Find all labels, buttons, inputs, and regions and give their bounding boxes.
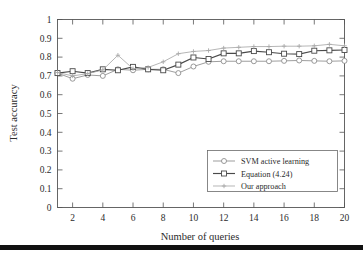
y-tick-label: 0	[47, 203, 52, 213]
x-tick-label: 18	[310, 213, 320, 223]
y-tick-label: 0.8	[40, 52, 52, 62]
series-1	[55, 58, 347, 81]
x-tick-label: 2	[70, 213, 75, 223]
legend-label: Our approach	[241, 182, 286, 191]
x-tick-label: 14	[249, 213, 259, 223]
series-3	[55, 42, 346, 78]
x-tick-label: 16	[279, 213, 289, 223]
figure-container: 00.10.20.30.40.50.60.70.80.91 2468101214…	[0, 0, 363, 254]
series-2	[55, 47, 347, 75]
y-tick-label: 0.4	[40, 128, 52, 138]
x-tick-label: 10	[189, 213, 199, 223]
x-tick-label: 6	[131, 213, 136, 223]
footer-rule	[0, 245, 363, 250]
y-tick-label: 0.6	[40, 90, 52, 100]
x-tick-label: 8	[161, 213, 166, 223]
y-tick-label: 0.5	[40, 109, 52, 119]
test-accuracy-line-chart: 00.10.20.30.40.50.60.70.80.91 2468101214…	[0, 0, 363, 254]
y-tick-label: 1	[47, 15, 52, 25]
y-tick-label: 0.2	[40, 165, 52, 175]
y-tick-label: 0.3	[40, 146, 52, 156]
x-tick-label: 20	[340, 213, 350, 223]
y-tick-label: 0.9	[40, 34, 52, 44]
x-tick-label: 4	[100, 213, 105, 223]
x-axis-title: Number of queries	[161, 231, 240, 242]
legend-label: SVM active learning	[241, 157, 309, 166]
y-tick-label: 0.7	[40, 71, 52, 81]
x-tick-label: 12	[219, 213, 229, 223]
y-tick-label: 0.1	[40, 184, 52, 194]
legend: SVM active learningEquation (4.24)Our ap…	[208, 151, 338, 192]
legend-label: Equation (4.24)	[241, 170, 293, 179]
data-series-group	[55, 42, 347, 81]
y-axis-title: Test accuracy	[8, 84, 19, 142]
